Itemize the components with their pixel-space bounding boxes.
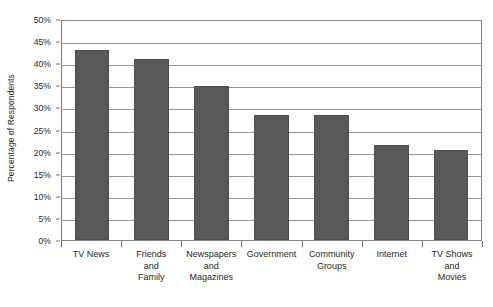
y-axis-tick-label: 15%: [34, 170, 51, 180]
y-axis-tick-mark: [56, 196, 60, 197]
y-axis-tick-label: 35%: [34, 81, 51, 91]
bar[interactable]: [194, 86, 229, 240]
x-axis-category-label-line: Family: [122, 272, 180, 284]
y-axis-tick-mark: [56, 130, 60, 131]
x-axis-category-label-line: Groups: [303, 261, 361, 273]
bar-slot: [122, 21, 182, 240]
x-axis-tick-mark: [422, 241, 423, 247]
y-axis-tick-mark: [56, 42, 60, 43]
bar[interactable]: [134, 59, 169, 240]
x-axis-category-label: Internet: [362, 249, 422, 284]
x-axis-tick-mark: [482, 241, 483, 247]
y-axis-tick-labels: 50%45%40%35%30%25%20%15%10%5%0%: [22, 20, 56, 241]
bar[interactable]: [434, 150, 469, 240]
bar[interactable]: [314, 115, 349, 240]
x-axis-category-label-line: Magazines: [182, 272, 240, 284]
x-axis-tick-mark: [241, 241, 242, 247]
bar-slot: [62, 21, 122, 240]
x-axis-tick-marks: [61, 241, 482, 248]
bar[interactable]: [75, 50, 110, 240]
y-axis-tick-mark: [56, 174, 60, 175]
bar-chart: Percentage of Respondents 50%45%40%35%30…: [0, 0, 493, 307]
x-axis-category-labels: TV NewsFriendsandFamilyNewspapersandMaga…: [61, 249, 482, 284]
y-axis-tick-label: 40%: [34, 59, 51, 69]
y-axis-tick-mark: [56, 64, 60, 65]
bar-slot: [421, 21, 481, 240]
bar[interactable]: [374, 145, 409, 240]
bar-slot: [301, 21, 361, 240]
x-axis-category-label-line: TV Shows: [423, 249, 481, 261]
y-axis-tick-label: 10%: [34, 192, 51, 202]
y-axis-tick-label: 50%: [34, 15, 51, 25]
x-axis-category-label-line: Newspapers: [182, 249, 240, 261]
bar-slot: [182, 21, 242, 240]
x-axis-tick-mark: [121, 241, 122, 247]
x-axis-category-label: TV News: [61, 249, 121, 284]
x-axis-category-label-line: TV News: [62, 249, 120, 261]
x-axis-tick-mark: [181, 241, 182, 247]
y-axis-tick-mark: [56, 152, 60, 153]
y-axis-tick-mark: [56, 20, 60, 21]
x-axis-tick-mark: [302, 241, 303, 247]
bars-container: [62, 21, 481, 240]
plot-area: [61, 20, 482, 241]
x-axis-category-label-line: and: [182, 261, 240, 273]
y-axis-tick-label: 45%: [34, 37, 51, 47]
y-axis-tick-label: 5%: [39, 214, 51, 224]
y-axis-title: Percentage of Respondents: [0, 0, 22, 255]
x-axis-tick-mark: [362, 241, 363, 247]
bar-slot: [361, 21, 421, 240]
y-axis-title-text: Percentage of Respondents: [6, 74, 16, 182]
y-axis-tick-mark: [56, 218, 60, 219]
x-axis-category-label-line: Internet: [363, 249, 421, 261]
x-axis-tick-mark: [61, 241, 62, 247]
bar-slot: [242, 21, 302, 240]
x-axis-category-label: NewspapersandMagazines: [181, 249, 241, 284]
x-axis-category-label-line: Community: [303, 249, 361, 261]
y-axis-tick-mark: [56, 86, 60, 87]
y-axis-tick-label: 30%: [34, 103, 51, 113]
x-axis-category-label-line: Friends: [122, 249, 180, 261]
x-axis-category-label: CommunityGroups: [302, 249, 362, 284]
x-axis-category-label-line: Movies: [423, 272, 481, 284]
x-axis-category-label: Government: [241, 249, 301, 284]
y-axis-tick-label: 20%: [34, 148, 51, 158]
y-axis-tick-mark: [56, 108, 60, 109]
x-axis-category-label-line: and: [423, 261, 481, 273]
x-axis-category-label: FriendsandFamily: [121, 249, 181, 284]
y-axis-tick-label: 25%: [34, 126, 51, 136]
bar[interactable]: [254, 115, 289, 240]
x-axis-category-label-line: and: [122, 261, 180, 273]
y-axis-tick-label: 0%: [39, 236, 51, 246]
x-axis-category-label-line: Government: [242, 249, 300, 261]
x-axis-category-label: TV ShowsandMovies: [422, 249, 482, 284]
y-axis-tick-mark: [56, 241, 60, 242]
